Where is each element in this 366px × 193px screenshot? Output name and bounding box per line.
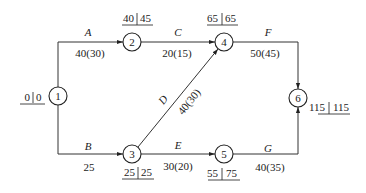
node-3-ls: 25	[141, 166, 153, 178]
edge-A-duration: 40(30)	[75, 47, 105, 60]
network-diagram: A 40(30) B 25 C 20(15) D 40(30) E 30(20)…	[0, 0, 366, 193]
edge-G-name: G	[264, 142, 272, 154]
node-1-label: 1	[55, 90, 61, 102]
edge-E-duration: 30(20)	[163, 160, 193, 173]
node-6-es: 115	[309, 101, 326, 113]
node-2: 2	[123, 33, 141, 51]
node-6: 6	[289, 89, 307, 107]
node-1: 1	[49, 87, 67, 105]
node-4: 4	[215, 33, 233, 51]
node-1-times: 0 0	[20, 91, 45, 104]
node-4-ls: 65	[225, 12, 237, 24]
node-6-times: 115 115	[309, 101, 350, 114]
node-2-es: 40	[123, 12, 135, 24]
edge-C: C 20(15)	[141, 26, 215, 60]
edge-E-name: E	[174, 139, 182, 151]
edge-G: G 40(35)	[233, 107, 298, 174]
node-5-es: 55	[207, 167, 219, 179]
edge-C-duration: 20(15)	[162, 47, 192, 60]
edge-G-duration: 40(35)	[255, 161, 285, 174]
edge-F: F 50(45)	[233, 26, 298, 89]
node-5-times: 55 75	[207, 167, 240, 180]
edge-B-duration: 25	[84, 161, 96, 173]
edge-A-name: A	[84, 26, 92, 38]
edge-F-name: F	[264, 26, 272, 38]
node-3-times: 25 25	[122, 166, 154, 179]
node-4-es: 65	[207, 12, 219, 24]
edge-D-duration: 40(30)	[175, 86, 204, 117]
node-1-ls: 0	[36, 91, 42, 103]
node-1-es: 0	[25, 91, 31, 103]
node-6-ls: 115	[333, 101, 350, 113]
node-5-label: 5	[221, 148, 227, 160]
edge-B: B 25	[58, 105, 123, 173]
node-3: 3	[123, 145, 141, 163]
edge-A: A 40(30)	[58, 26, 123, 87]
edge-D: D 40(30)	[138, 49, 218, 147]
edge-E: E 30(20)	[141, 139, 215, 173]
node-4-label: 4	[221, 36, 227, 48]
node-3-es: 25	[124, 166, 136, 178]
node-2-label: 2	[129, 36, 135, 48]
edge-B-name: B	[85, 140, 92, 152]
node-2-ls: 45	[140, 12, 152, 24]
node-6-label: 6	[295, 92, 301, 104]
node-4-times: 65 65	[207, 12, 238, 25]
edge-F-duration: 50(45)	[250, 47, 280, 60]
edge-D-name: D	[155, 93, 170, 107]
node-2-times: 40 45	[122, 12, 153, 25]
node-5: 5	[215, 145, 233, 163]
node-5-ls: 75	[226, 167, 238, 179]
edge-C-name: C	[174, 26, 182, 38]
node-3-label: 3	[129, 148, 135, 160]
